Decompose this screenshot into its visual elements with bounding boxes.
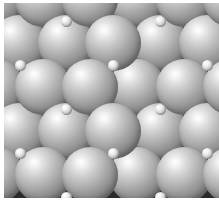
interstitial-sphere xyxy=(108,148,119,159)
sphere-lattice xyxy=(4,3,219,198)
interstitial-sphere xyxy=(61,16,72,27)
interstitial-sphere xyxy=(155,16,166,27)
interstitial-sphere xyxy=(61,104,72,115)
interstitial-sphere xyxy=(15,148,26,159)
interstitial-sphere xyxy=(155,104,166,115)
interstitial-sphere xyxy=(155,192,166,199)
sphere-model-plate xyxy=(4,3,219,198)
interstitial-sphere xyxy=(61,192,72,199)
interstitial-sphere xyxy=(202,148,213,159)
figure-container: Close-packed sphere model Grayscale rend… xyxy=(0,0,219,204)
interstitial-sphere xyxy=(202,60,213,71)
interstitial-sphere xyxy=(15,60,26,71)
interstitial-sphere xyxy=(108,60,119,71)
